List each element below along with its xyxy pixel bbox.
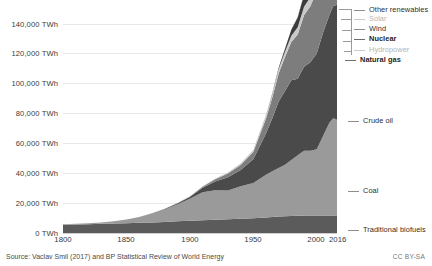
series-label-text-coal: Coal [363,186,378,195]
x-tick-label-2016: 2016 [329,236,346,244]
source-note: Source: Vaclav Smil (2017) and BP Statis… [6,253,224,260]
legend-bracket-stub-wind [342,30,351,31]
y-tick-label-120000: 120,000 TWh [0,50,58,58]
series-label-text-traditional-biofuels: Traditional biofuels [363,225,426,234]
legend-bracket [351,9,352,55]
series-dash-hydropower [354,50,365,51]
axis-baseline [63,233,337,234]
series-dash-nuclear [354,39,365,40]
y-tick-label-140000: 140,000 TWh [0,21,58,29]
series-label-traditional-biofuels[interactable]: Traditional biofuels [348,226,426,233]
series-label-natural-gas[interactable]: Natural gas [345,56,401,63]
x-tick-label-1900: 1900 [181,236,198,244]
y-tick-label-40000: 40,000 TWh [0,170,58,178]
stacked-area-series [63,12,337,233]
series-label-text-other-renewables: Other renewables [369,5,428,14]
series-label-hydropower[interactable]: Hydropower [354,46,409,53]
y-tick-label-100000: 100,000 TWh [0,80,58,88]
series-label-text-solar: Solar [369,14,387,23]
legend-bracket-stub-top [339,9,351,10]
series-label-text-nuclear: Nuclear [369,34,396,43]
series-dash-crude-oil [348,121,359,122]
series-label-text-natural-gas: Natural gas [360,55,401,64]
y-tick-label-60000: 60,000 TWh [0,140,58,148]
series-label-text-wind: Wind [369,24,386,33]
legend-bracket-stub-hydro [344,51,351,52]
series-dash-coal [348,191,359,192]
series-dash-natural-gas [345,60,356,61]
series-label-text-crude-oil: Crude oil [363,116,393,125]
series-label-crude-oil[interactable]: Crude oil [348,117,393,124]
series-label-text-hydropower: Hydropower [369,45,409,54]
series-dash-traditional-biofuels [348,230,359,231]
legend-bracket-stub-solar [341,19,351,20]
series-dash-solar [354,19,365,20]
license-badge[interactable]: CC BY-SA [393,253,425,260]
series-label-solar[interactable]: Solar [354,15,387,22]
plot-area [63,12,337,233]
series-label-other-renewables[interactable]: Other renewables [354,6,428,13]
y-tick-label-80000: 80,000 TWh [0,110,58,118]
x-tick-label-2000: 2000 [307,236,324,244]
x-tick-label-1800: 1800 [54,236,71,244]
series-label-coal[interactable]: Coal [348,187,378,194]
y-tick-label-20000: 20,000 TWh [0,200,58,208]
legend-bracket-stub-nuclear [343,41,351,42]
series-label-wind[interactable]: Wind [354,25,386,32]
y-tick-label-0: 0 TWh [0,230,58,238]
x-tick-label-1950: 1950 [244,236,261,244]
x-tick-label-1850: 1850 [117,236,134,244]
series-label-nuclear[interactable]: Nuclear [354,35,396,42]
series-dash-wind [354,29,365,30]
series-dash-other-renewables [354,10,365,11]
energy-consumption-area-chart: 140,000 TWh 120,000 TWh 100,000 TWh 80,0… [0,0,432,266]
